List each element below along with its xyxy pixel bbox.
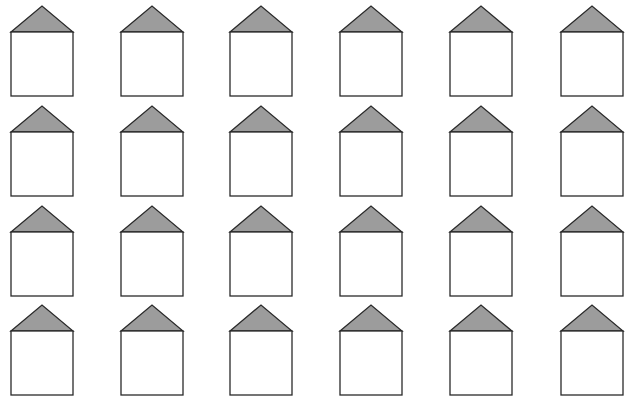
wall-square <box>121 232 183 296</box>
house-shape <box>121 206 183 296</box>
wall-square <box>450 232 512 296</box>
house-shape <box>450 6 512 96</box>
wall-square <box>450 132 512 196</box>
wall-square <box>121 32 183 96</box>
roof-triangle <box>450 106 512 132</box>
house-shape <box>561 206 623 296</box>
house-shape <box>230 206 292 296</box>
roof-triangle <box>11 305 73 331</box>
roof-triangle <box>121 106 183 132</box>
wall-square <box>561 331 623 395</box>
house-shape <box>561 6 623 96</box>
wall-square <box>561 32 623 96</box>
wall-square <box>11 232 73 296</box>
wall-square <box>11 32 73 96</box>
house-shape <box>230 106 292 196</box>
house-shape <box>561 305 623 395</box>
house-shape <box>450 106 512 196</box>
house-shape <box>230 6 292 96</box>
house-shape <box>121 305 183 395</box>
roof-triangle <box>11 106 73 132</box>
roof-triangle <box>561 305 623 331</box>
wall-square <box>340 331 402 395</box>
house-shape <box>340 305 402 395</box>
house-shape <box>340 106 402 196</box>
wall-square <box>561 232 623 296</box>
house-shape <box>450 206 512 296</box>
roof-triangle <box>230 106 292 132</box>
roof-triangle <box>121 206 183 232</box>
roof-triangle <box>230 305 292 331</box>
wall-square <box>561 132 623 196</box>
roof-triangle <box>230 206 292 232</box>
wall-square <box>340 232 402 296</box>
house-shape <box>340 206 402 296</box>
house-shape <box>11 206 73 296</box>
wall-square <box>11 132 73 196</box>
house-grid-worksheet <box>0 0 635 402</box>
roof-triangle <box>340 106 402 132</box>
house-shape <box>340 6 402 96</box>
wall-square <box>121 331 183 395</box>
roof-triangle <box>121 6 183 32</box>
house-shape <box>230 305 292 395</box>
wall-square <box>340 132 402 196</box>
wall-square <box>230 32 292 96</box>
house-shape <box>450 305 512 395</box>
wall-square <box>230 132 292 196</box>
roof-triangle <box>561 6 623 32</box>
roof-triangle <box>450 206 512 232</box>
wall-square <box>340 32 402 96</box>
wall-square <box>450 331 512 395</box>
roof-triangle <box>561 206 623 232</box>
house-shape <box>121 6 183 96</box>
roof-triangle <box>340 6 402 32</box>
house-shape <box>121 106 183 196</box>
house-shape <box>11 305 73 395</box>
roof-triangle <box>230 6 292 32</box>
wall-square <box>121 132 183 196</box>
wall-square <box>230 232 292 296</box>
roof-triangle <box>450 6 512 32</box>
roof-triangle <box>340 206 402 232</box>
roof-triangle <box>340 305 402 331</box>
wall-square <box>11 331 73 395</box>
roof-triangle <box>121 305 183 331</box>
wall-square <box>450 32 512 96</box>
wall-square <box>230 331 292 395</box>
house-shape <box>11 106 73 196</box>
roof-triangle <box>11 206 73 232</box>
house-shape <box>11 6 73 96</box>
roof-triangle <box>450 305 512 331</box>
roof-triangle <box>561 106 623 132</box>
house-shape <box>561 106 623 196</box>
roof-triangle <box>11 6 73 32</box>
